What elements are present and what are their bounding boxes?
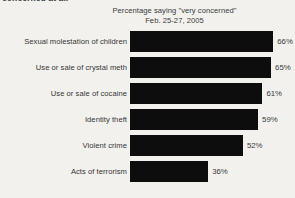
bar <box>130 109 258 130</box>
bar-track: 66% <box>130 31 295 52</box>
bar-category-label: Violent crime <box>0 135 127 156</box>
bar <box>130 31 273 52</box>
bar-chart-plot-area: Sexual molestation of children66%Use or … <box>0 28 295 198</box>
bar-value-label: 52% <box>243 135 263 156</box>
bar-track: 36% <box>130 161 295 182</box>
bar-category-label: Acts of terrorism <box>0 161 127 182</box>
bar-track: 52% <box>130 135 295 156</box>
bar-value-label: 65% <box>271 57 291 78</box>
bar-track: 59% <box>130 109 295 130</box>
bar <box>130 135 243 156</box>
bar-row: Acts of terrorism36% <box>0 161 295 182</box>
bar-track: 61% <box>130 83 295 104</box>
bar-row: Identity theft59% <box>0 109 295 130</box>
chart-screenshot: concerned at all Percentage saying "very… <box>0 0 295 198</box>
bar-row: Sexual molestation of children66% <box>0 31 295 52</box>
bar-category-label: Use or sale of cocaine <box>0 83 127 104</box>
bar-value-label: 36% <box>208 161 228 182</box>
bar-value-label: 61% <box>262 83 282 104</box>
chart-title: Percentage saying "very concerned" <box>92 6 257 16</box>
bar-category-label: Identity theft <box>0 109 127 130</box>
chart-subtitle: Feb. 25-27, 2005 <box>92 16 257 26</box>
bar-row: Violent crime52% <box>0 135 295 156</box>
clipped-text-fragment-above: concerned at all <box>2 0 112 5</box>
bar <box>130 57 271 78</box>
bar-value-label: 66% <box>273 31 293 52</box>
bar-row: Use or sale of cocaine61% <box>0 83 295 104</box>
bar <box>130 83 262 104</box>
bar-track: 65% <box>130 57 295 78</box>
bar-row: Use or sale of crystal meth65% <box>0 57 295 78</box>
chart-title-block: Percentage saying "very concerned" Feb. … <box>92 6 257 25</box>
bar <box>130 161 208 182</box>
bar-value-label: 59% <box>258 109 278 130</box>
bar-category-label: Use or sale of crystal meth <box>0 57 127 78</box>
bar-category-label: Sexual molestation of children <box>0 31 127 52</box>
